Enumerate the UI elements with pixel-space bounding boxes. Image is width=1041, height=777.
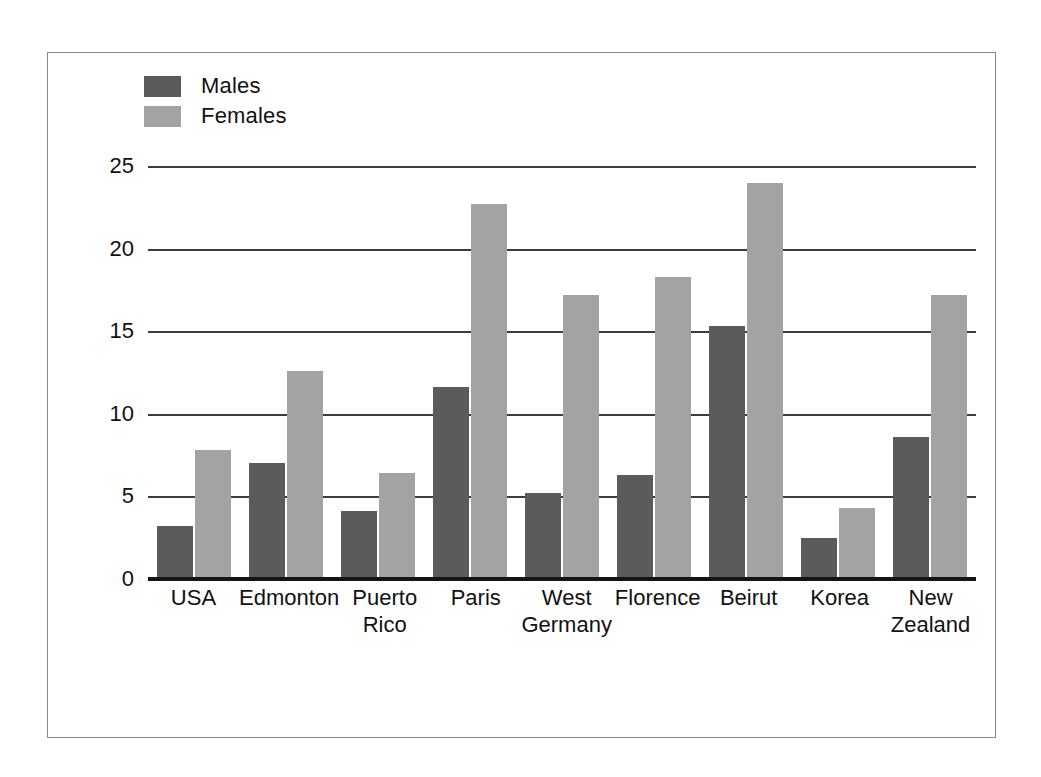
- bar-male: [801, 538, 837, 579]
- legend-swatch-males: [144, 76, 181, 97]
- bar-group: [424, 166, 516, 579]
- x-axis-label: WestGermany: [521, 584, 612, 638]
- x-axis-label: PuertoRico: [339, 584, 430, 638]
- bar-female: [195, 450, 231, 579]
- bar-group: [608, 166, 700, 579]
- bar-female: [471, 204, 507, 579]
- bar-group: [516, 166, 608, 579]
- x-axis-line: [148, 577, 976, 581]
- chart-legend: Males Females: [144, 71, 287, 131]
- y-tick-label: 15: [110, 318, 134, 344]
- x-axis-label: Paris: [430, 584, 521, 638]
- bar-male: [525, 493, 561, 579]
- y-tick-label: 0: [122, 566, 134, 592]
- x-axis-label: Korea: [794, 584, 885, 638]
- bar-male: [433, 387, 469, 579]
- y-tick-label: 20: [110, 236, 134, 262]
- y-tick-label: 25: [110, 153, 134, 179]
- plot-area: 0510152025: [148, 166, 976, 579]
- bar-female: [931, 295, 967, 579]
- legend-item-males: Males: [144, 71, 287, 101]
- bar-female: [655, 277, 691, 579]
- legend-label-females: Females: [201, 103, 287, 129]
- y-tick-label: 5: [122, 483, 134, 509]
- x-axis-label: Beirut: [703, 584, 794, 638]
- legend-swatch-females: [144, 106, 181, 127]
- bar-series-container: [148, 166, 976, 579]
- bar-female: [379, 473, 415, 579]
- legend-label-males: Males: [201, 73, 261, 99]
- bar-group: [332, 166, 424, 579]
- bar-female: [747, 183, 783, 579]
- bar-male: [341, 511, 377, 579]
- x-axis-label: Florence: [612, 584, 703, 638]
- bar-group: [792, 166, 884, 579]
- bar-group: [700, 166, 792, 579]
- bar-group: [240, 166, 332, 579]
- bar-female: [287, 371, 323, 579]
- bar-male: [709, 326, 745, 579]
- bar-male: [249, 463, 285, 579]
- bar-female: [839, 508, 875, 579]
- x-axis-label: Edmonton: [239, 584, 339, 638]
- bar-male: [157, 526, 193, 579]
- bar-male: [893, 437, 929, 579]
- x-axis-label: USA: [148, 584, 239, 638]
- x-axis-labels: USAEdmontonPuertoRicoParisWestGermanyFlo…: [148, 584, 976, 638]
- bar-group: [884, 166, 976, 579]
- bar-male: [617, 475, 653, 579]
- bar-group: [148, 166, 240, 579]
- y-tick-label: 10: [110, 401, 134, 427]
- legend-item-females: Females: [144, 101, 287, 131]
- figure-frame: Males Females Lifetime rate per 100 peop…: [47, 52, 996, 738]
- x-axis-label: NewZealand: [885, 584, 976, 638]
- bar-female: [563, 295, 599, 579]
